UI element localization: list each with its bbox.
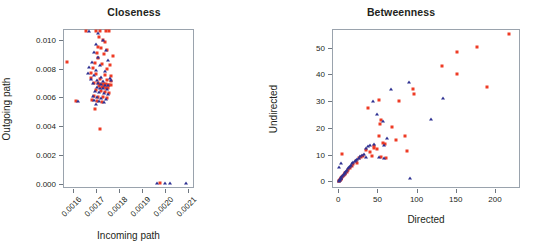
panel-title-betweenness: Betweenness bbox=[267, 6, 535, 18]
x-tick-label: 200 bbox=[488, 195, 501, 204]
data-point-blue-triangle bbox=[371, 100, 375, 103]
data-point-blue-triangle bbox=[441, 97, 445, 100]
data-point-red-square bbox=[486, 85, 489, 88]
x-tick-mark bbox=[417, 189, 418, 193]
x-tick-mark bbox=[73, 189, 74, 193]
x-tick-label: 150 bbox=[449, 195, 462, 204]
data-point-red-square bbox=[395, 139, 398, 142]
x-tick-mark bbox=[188, 189, 189, 193]
y-tick-mark bbox=[328, 181, 332, 182]
data-point-blue-triangle bbox=[92, 74, 96, 77]
data-point-blue-triangle bbox=[94, 69, 98, 72]
y-tick-mark bbox=[328, 48, 332, 49]
data-point-blue-triangle bbox=[87, 30, 91, 33]
y-tick-label: 20 bbox=[267, 123, 325, 132]
data-point-red-square bbox=[455, 50, 458, 53]
y-tick-mark bbox=[328, 128, 332, 129]
data-point-red-square bbox=[341, 153, 344, 156]
data-point-red-square bbox=[367, 107, 370, 110]
y-tick-mark bbox=[59, 97, 63, 98]
data-point-red-square bbox=[368, 151, 371, 154]
data-point-red-square bbox=[370, 155, 373, 158]
data-point-blue-triangle bbox=[109, 78, 113, 81]
y-tick-label: 0.006 bbox=[0, 93, 56, 102]
y-tick-label: 0 bbox=[267, 177, 325, 186]
x-tick-mark bbox=[495, 189, 496, 193]
data-point-red-square bbox=[65, 60, 68, 63]
y-tick-label: 10 bbox=[267, 150, 325, 159]
data-point-blue-triangle bbox=[105, 88, 109, 91]
data-point-red-square bbox=[398, 99, 401, 102]
data-point-blue-triangle bbox=[163, 182, 167, 185]
data-point-red-square bbox=[378, 135, 381, 138]
data-point-blue-triangle bbox=[381, 119, 385, 122]
y-tick-label: 30 bbox=[267, 97, 325, 106]
data-point-blue-triangle bbox=[382, 144, 386, 147]
data-point-red-square bbox=[456, 72, 459, 75]
data-point-blue-triangle bbox=[184, 182, 188, 185]
data-point-blue-triangle bbox=[408, 176, 412, 179]
data-point-red-square bbox=[103, 53, 106, 56]
y-tick-label: 40 bbox=[267, 70, 325, 79]
data-point-blue-triangle bbox=[92, 98, 96, 101]
x-tick-mark bbox=[377, 189, 378, 193]
data-point-red-square bbox=[103, 73, 106, 76]
plot-area-betweenness bbox=[332, 29, 520, 188]
data-point-blue-triangle bbox=[94, 102, 98, 105]
data-point-red-square bbox=[411, 88, 414, 91]
x-tick-label: 0 bbox=[336, 195, 340, 204]
data-point-blue-triangle bbox=[99, 75, 103, 78]
data-point-red-square bbox=[99, 127, 102, 130]
data-point-red-square bbox=[508, 33, 511, 36]
data-point-blue-triangle bbox=[103, 70, 107, 73]
y-tick-mark bbox=[328, 74, 332, 75]
data-point-blue-triangle bbox=[94, 42, 98, 45]
data-point-blue-triangle bbox=[168, 182, 172, 185]
data-point-blue-triangle bbox=[96, 56, 100, 59]
data-point-blue-triangle bbox=[339, 161, 343, 164]
panel-closeness: Closeness Outgoing path Incoming path 0.… bbox=[0, 0, 268, 251]
x-axis-label-betweenness: Directed bbox=[332, 214, 520, 225]
data-point-blue-triangle bbox=[97, 90, 101, 93]
plot-area-closeness bbox=[63, 29, 194, 188]
data-point-blue-triangle bbox=[106, 58, 110, 61]
data-point-red-square bbox=[378, 98, 381, 101]
data-point-blue-triangle bbox=[86, 72, 90, 75]
data-point-blue-triangle bbox=[98, 63, 102, 66]
data-point-red-square bbox=[406, 149, 409, 152]
data-point-blue-triangle bbox=[91, 81, 95, 84]
data-point-blue-triangle bbox=[385, 136, 389, 139]
y-tick-mark bbox=[328, 101, 332, 102]
data-point-blue-triangle bbox=[76, 99, 80, 102]
y-tick-mark bbox=[328, 155, 332, 156]
data-point-blue-triangle bbox=[337, 179, 341, 182]
x-tick-mark bbox=[165, 189, 166, 193]
data-point-blue-triangle bbox=[102, 101, 106, 104]
panel-title-closeness: Closeness bbox=[0, 6, 268, 18]
data-point-red-square bbox=[100, 47, 103, 50]
data-point-red-square bbox=[108, 30, 111, 33]
data-point-blue-triangle bbox=[101, 39, 105, 42]
data-point-blue-triangle bbox=[377, 156, 381, 159]
data-point-red-square bbox=[390, 125, 393, 128]
x-tick-mark bbox=[456, 189, 457, 193]
y-tick-mark bbox=[59, 155, 63, 156]
data-point-blue-triangle bbox=[389, 88, 393, 91]
x-axis-label-closeness: Incoming path bbox=[63, 230, 194, 241]
y-tick-label: 0.010 bbox=[0, 35, 56, 44]
panel-betweenness: Betweenness Undirected Directed 01020304… bbox=[267, 0, 535, 251]
data-point-blue-triangle bbox=[155, 182, 159, 185]
data-point-red-square bbox=[378, 123, 381, 126]
data-point-red-square bbox=[475, 45, 478, 48]
data-point-red-square bbox=[413, 92, 416, 95]
data-point-blue-triangle bbox=[375, 112, 379, 115]
data-point-blue-triangle bbox=[87, 65, 91, 68]
y-tick-label: 0.000 bbox=[0, 179, 56, 188]
x-tick-mark bbox=[338, 189, 339, 193]
data-point-blue-triangle bbox=[90, 61, 94, 64]
x-tick-label: 100 bbox=[410, 195, 423, 204]
data-point-blue-triangle bbox=[106, 84, 110, 87]
x-tick-label: 50 bbox=[373, 195, 382, 204]
scatter-plot-figure: Closeness Outgoing path Incoming path 0.… bbox=[0, 0, 535, 251]
data-point-blue-triangle bbox=[96, 31, 100, 34]
